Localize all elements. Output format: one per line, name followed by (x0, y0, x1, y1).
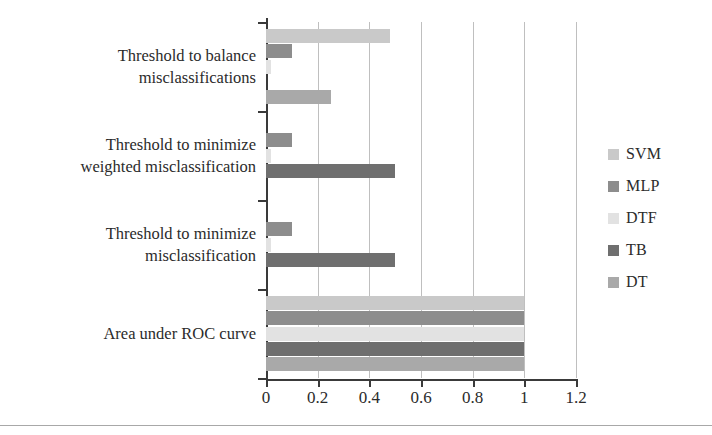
legend-item-svm[interactable]: SVM (608, 138, 708, 170)
bar-mlp (266, 222, 292, 236)
value-tick-0.2 (318, 379, 320, 387)
category-label-line: misclassification (26, 245, 256, 267)
value-tick-label-0.8: 0.8 (462, 388, 483, 408)
legend-swatch-icon (608, 213, 619, 224)
legend-item-mlp[interactable]: MLP (608, 170, 708, 202)
gridline-1.2 (576, 22, 577, 378)
legend-item-tb[interactable]: TB (608, 234, 708, 266)
legend-label: SVM (626, 145, 661, 163)
category-tick-2 (258, 200, 267, 202)
value-tick-0 (266, 379, 268, 387)
value-tick-1 (524, 379, 526, 387)
legend-label: TB (626, 241, 647, 259)
category-label-line: Area under ROC curve (26, 323, 256, 345)
category-label-2: Threshold to minimizemisclassification (26, 223, 256, 267)
category-axis-labels: Threshold to balancemisclassificationsTh… (20, 0, 256, 435)
category-label-line: misclassifications (26, 67, 256, 89)
category-label-line: Threshold to minimize (26, 134, 256, 156)
chart-figure: Threshold to balancemisclassificationsTh… (0, 0, 712, 435)
bar-dt (266, 90, 331, 104)
value-tick-label-1.2: 1.2 (565, 388, 586, 408)
gridline-1 (524, 22, 525, 378)
legend-swatch-icon (608, 181, 619, 192)
bar-mlp (266, 311, 524, 325)
legend-swatch-icon (608, 149, 619, 160)
value-tick-label-0.2: 0.2 (307, 388, 328, 408)
legend-label: DTF (626, 209, 657, 227)
legend-swatch-icon (608, 245, 619, 256)
bar-mlp (266, 133, 292, 147)
bar-dtf (266, 327, 524, 341)
bar-mlp (266, 44, 292, 58)
value-tick-1.2 (576, 379, 578, 387)
category-label-line: Threshold to balance (26, 45, 256, 67)
bar-svm (266, 29, 390, 43)
category-label-line: weighted misclassification (26, 156, 256, 178)
bar-dtf (266, 149, 271, 163)
value-tick-0.4 (369, 379, 371, 387)
chart-legend: SVMMLPDTFTBDT (608, 138, 708, 298)
category-tick-3 (258, 289, 267, 291)
page-rule (0, 425, 712, 426)
value-tick-0.8 (473, 379, 475, 387)
category-label-line: Threshold to minimize (26, 223, 256, 245)
bar-dt (266, 357, 524, 371)
category-tick-0 (258, 22, 267, 24)
value-tick-label-0.6: 0.6 (410, 388, 431, 408)
category-tick-1 (258, 111, 267, 113)
category-label-1: Threshold to minimizeweighted misclassif… (26, 134, 256, 178)
bar-tb (266, 253, 395, 267)
value-axis-labels: 00.20.40.60.811.2 (0, 388, 712, 416)
legend-item-dt[interactable]: DT (608, 266, 708, 298)
bar-tb (266, 164, 395, 178)
value-tick-label-0: 0 (262, 388, 271, 408)
legend-label: MLP (626, 177, 660, 195)
value-tick-label-1: 1 (520, 388, 529, 408)
bar-tb (266, 342, 524, 356)
value-tick-label-0.4: 0.4 (359, 388, 380, 408)
bar-svm (266, 296, 524, 310)
bar-dtf (266, 238, 271, 252)
bar-dtf (266, 60, 271, 74)
value-tick-0.6 (421, 379, 423, 387)
category-label-3: Area under ROC curve (26, 323, 256, 345)
legend-label: DT (626, 273, 648, 291)
legend-swatch-icon (608, 277, 619, 288)
category-label-0: Threshold to balancemisclassifications (26, 45, 256, 89)
legend-item-dtf[interactable]: DTF (608, 202, 708, 234)
